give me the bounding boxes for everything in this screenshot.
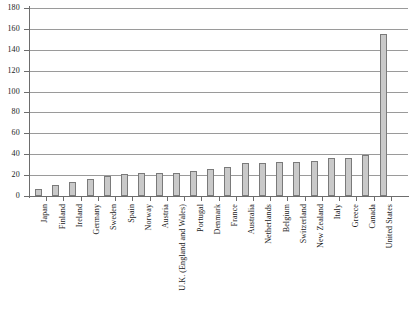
bar [345,158,352,196]
y-axis-tick-label: 100 [0,88,20,96]
bar [207,169,214,196]
x-axis-tick [201,196,202,201]
bar [35,189,42,196]
x-axis-tick [63,196,64,201]
bar [328,158,335,196]
x-axis-tick [150,196,151,201]
x-axis-tick-label: Austria [162,204,170,228]
x-axis-tick-label: Canada [369,204,377,229]
x-axis-tick-label: Sweden [110,204,118,230]
bar [276,162,283,196]
bar [104,176,111,196]
x-axis-tick-label: Portugal [197,204,205,232]
x-axis-tick-label: Switzerland [300,204,308,243]
bar [293,162,300,196]
x-axis-tick-label: Spain [128,204,136,223]
bar [156,173,163,196]
bar [380,34,387,196]
x-axis-tick [287,196,288,201]
x-axis-tick-label: Greece [352,204,360,227]
y-axis-tick-label: 80 [0,108,20,116]
x-axis-tick-label: Germany [93,204,101,234]
x-axis-tick-label: Australia [248,204,256,234]
x-axis-tick-label: New Zealand [317,204,325,248]
x-axis-tick [98,196,99,201]
bar [362,155,369,196]
x-axis-tick-label: France [231,204,239,226]
bar-chart: 020406080100120140160180 JapanFinlandIre… [0,0,417,313]
y-axis-tick-label: 60 [0,129,20,137]
bar [173,173,180,196]
y-axis-tick-label: 140 [0,46,20,54]
bar [224,167,231,196]
x-axis-tick-label: Japan [41,204,49,223]
x-axis-tick-label: Belgium [283,204,291,232]
x-axis-tick-label: Netherlands [265,204,273,244]
x-axis-tick [46,196,47,201]
x-axis-tick [184,196,185,201]
x-axis-tick [270,196,271,201]
y-axis-tick-label: 160 [0,25,20,33]
y-axis-tick-label: 0 [0,192,20,200]
x-axis-tick [322,196,323,201]
x-axis-tick [236,196,237,201]
bar [87,179,94,196]
x-axis-tick [253,196,254,201]
x-axis-tick [391,196,392,201]
x-axis-tick-label: Italy [334,204,342,219]
y-axis-tick-label: 180 [0,4,20,12]
bar [311,161,318,197]
x-axis-tick [115,196,116,201]
bar-series [29,8,408,196]
y-axis-tick-label: 40 [0,150,20,158]
x-axis-tick [356,196,357,201]
bar [121,174,128,196]
bar [138,173,145,196]
x-axis-tick [81,196,82,201]
bar [52,185,59,196]
x-axis-tick [374,196,375,201]
x-axis-tick [305,196,306,201]
bar [190,171,197,196]
x-axis-tick [339,196,340,201]
x-axis-tick-label: Norway [145,204,153,230]
x-axis-tick-label: Finland [59,204,67,229]
y-axis-tick-label: 120 [0,67,20,75]
x-axis-tick [219,196,220,201]
x-axis-tick-label: U.K. (England and Wales) [179,204,187,291]
bar [69,182,76,196]
x-axis-tick-label: Ireland [76,204,84,227]
y-axis-tick-label: 20 [0,171,20,179]
bar [242,163,249,196]
x-axis-tick-label: United States [386,204,394,248]
x-axis-tick-label: Denmark [214,204,222,234]
x-axis-tick [132,196,133,201]
bar [259,163,266,196]
x-axis-tick [167,196,168,201]
